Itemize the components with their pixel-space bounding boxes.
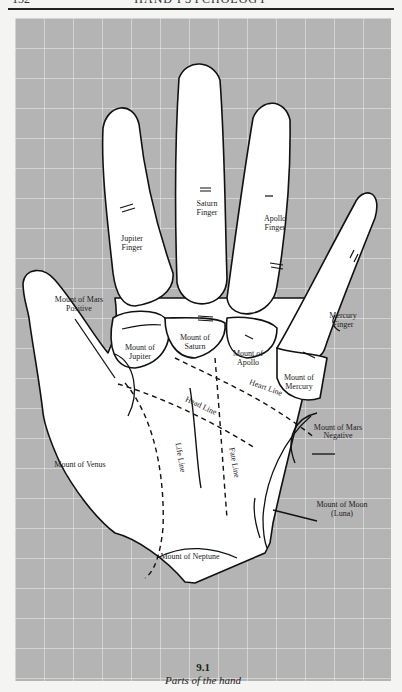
- header-rule: [8, 8, 394, 10]
- running-title: HAND PSYCHOLOGY: [8, 0, 394, 7]
- label-mount-jupiter: Mount ofJupiter: [125, 343, 155, 361]
- label-apollo-finger: ApolloFinger: [264, 214, 286, 232]
- figure-number: 9.1: [15, 661, 391, 673]
- hand-figure: JupiterFinger SaturnFinger ApolloFinger …: [15, 18, 391, 681]
- hand-diagram: JupiterFinger SaturnFinger ApolloFinger …: [15, 18, 391, 681]
- figure-caption: Parts of the hand: [15, 674, 391, 686]
- label-saturn-finger: SaturnFinger: [197, 199, 218, 217]
- label-mount-mercury: Mount ofMercury: [284, 373, 314, 391]
- label-mercury-finger: MercuryFinger: [329, 311, 357, 329]
- label-mount-neptune: Mount of Neptune: [160, 552, 220, 561]
- label-mount-venus: Mount of Venus: [54, 460, 105, 469]
- label-mount-apollo: Mount ofApollo: [233, 349, 263, 367]
- label-jupiter-finger: JupiterFinger: [121, 234, 143, 252]
- page-header: 152 HAND PSYCHOLOGY: [8, 0, 394, 8]
